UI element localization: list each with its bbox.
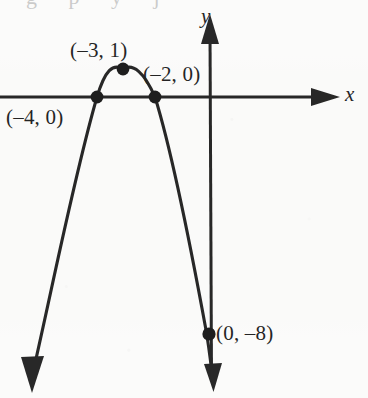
graph-canvas [0, 0, 368, 398]
point-marker-vertex [117, 63, 130, 76]
point-label-root-left: (–4, 0) [6, 107, 63, 128]
parabola-left-arrowhead [21, 356, 44, 393]
point-marker-y-intercept [202, 327, 215, 340]
point-label-root-right: (–2, 0) [143, 64, 200, 85]
point-marker-root-right [149, 91, 162, 104]
point-label-y-intercept: (0, –8) [216, 323, 273, 344]
y-axis-line [210, 30, 212, 378]
point-label-vertex: (–3, 1) [70, 40, 127, 61]
x-axis-arrowhead [311, 88, 340, 106]
y-axis-label: y [201, 6, 210, 27]
graph-figure: g p y j (–3, 1) (–4, 0) (–2, 0) (0, –8) … [0, 0, 368, 398]
point-marker-root-left [91, 91, 104, 104]
x-axis-label: x [345, 84, 354, 105]
